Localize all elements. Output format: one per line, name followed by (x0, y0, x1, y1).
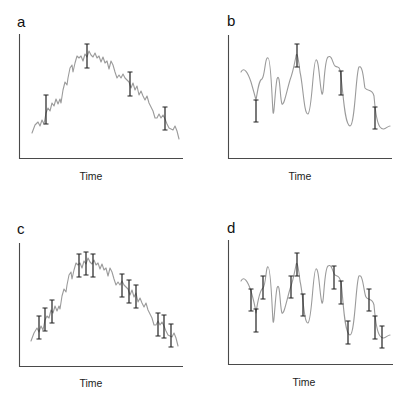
axes-c (20, 243, 184, 367)
panel-a: a Time (17, 13, 183, 182)
errorbars-d (249, 253, 385, 348)
panel-label-d: d (227, 219, 235, 236)
panel-label-b: b (227, 12, 235, 29)
signal-trace-b (241, 54, 390, 129)
x-axis-label-c: Time (80, 377, 103, 389)
signal-trace-d (241, 263, 390, 338)
panel-label-a: a (17, 13, 26, 30)
panel-c: c Time (17, 220, 183, 389)
signal-trace-a (32, 51, 179, 139)
signal-trace-c (31, 258, 178, 346)
panel-d: d Time (227, 219, 393, 388)
axes-a (20, 34, 184, 159)
x-axis-label-d: Time (293, 376, 316, 388)
panel-label-c: c (17, 220, 25, 237)
figure: a Time b Time c (0, 0, 403, 401)
errorbars-a (44, 44, 168, 130)
axes-b (229, 35, 393, 159)
x-axis-label-b: Time (289, 170, 312, 182)
errorbars-c (37, 252, 174, 347)
axes-d (229, 240, 394, 365)
panel-b: b Time (227, 12, 392, 182)
x-axis-label-a: Time (80, 170, 103, 182)
